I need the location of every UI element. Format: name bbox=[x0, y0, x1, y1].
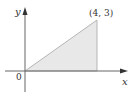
shaded-triangle-region bbox=[25, 20, 97, 71]
y-axis-arrow-icon bbox=[23, 7, 28, 15]
origin-label: 0 bbox=[16, 72, 22, 82]
point-label: (4, 3) bbox=[89, 8, 113, 18]
x-axis-arrow-icon bbox=[120, 69, 128, 74]
x-axis-label: x bbox=[122, 76, 128, 87]
coordinate-diagram: y x 0 (4, 3) bbox=[0, 0, 139, 112]
y-axis-label: y bbox=[14, 6, 21, 17]
